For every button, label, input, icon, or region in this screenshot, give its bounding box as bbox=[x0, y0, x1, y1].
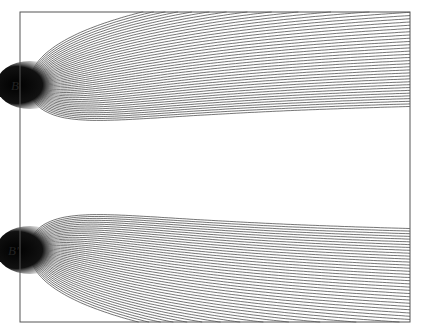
field-lines bbox=[20, 12, 410, 322]
source-label-b-prime: B′ bbox=[8, 243, 19, 258]
source-label-b: B bbox=[11, 78, 19, 93]
field-line-diagram: B B′ bbox=[0, 0, 425, 336]
